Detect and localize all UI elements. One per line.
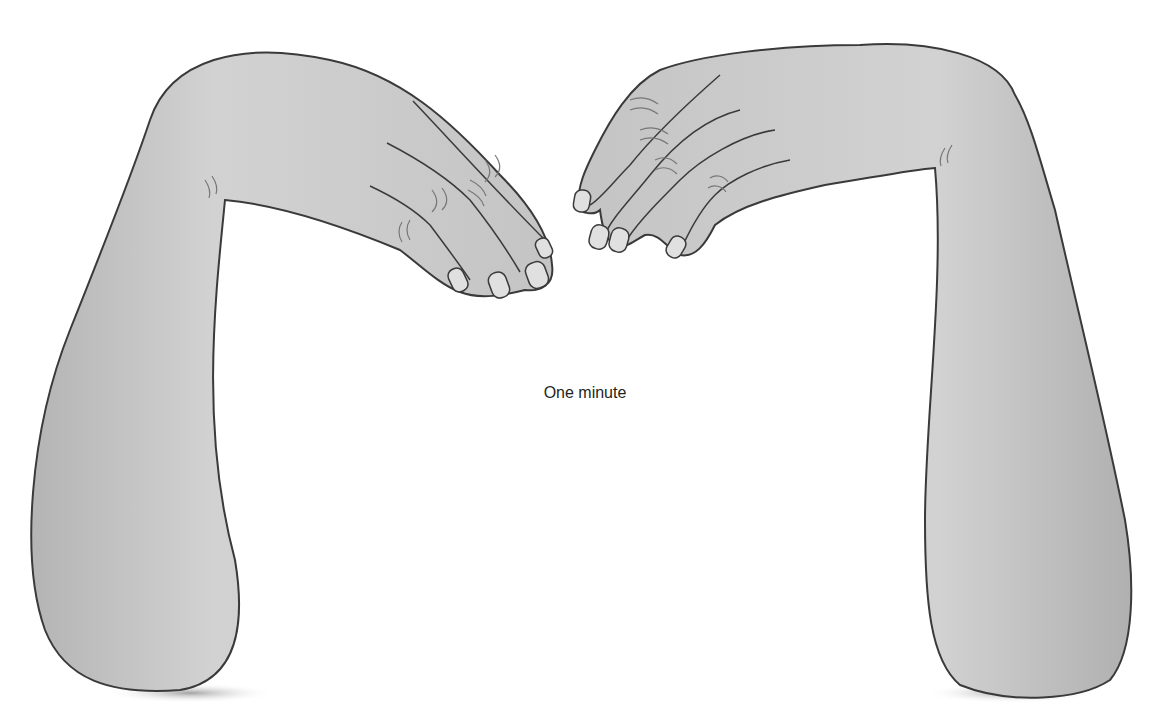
figure-caption: One minute xyxy=(520,384,650,402)
right-arm xyxy=(572,44,1131,698)
left-arm xyxy=(31,53,554,691)
illustration xyxy=(0,0,1169,722)
